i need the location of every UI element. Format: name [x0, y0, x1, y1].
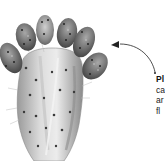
caption-line-1: Pl: [156, 74, 165, 85]
caption-line-2: ca: [156, 85, 165, 96]
annotation-arrow: [111, 41, 156, 74]
annotation-caption: Pl ca ar fl: [156, 74, 165, 116]
caption-line-4: fl: [156, 106, 165, 117]
cactus-illustration: [0, 0, 165, 161]
caption-line-3: ar: [156, 95, 165, 106]
